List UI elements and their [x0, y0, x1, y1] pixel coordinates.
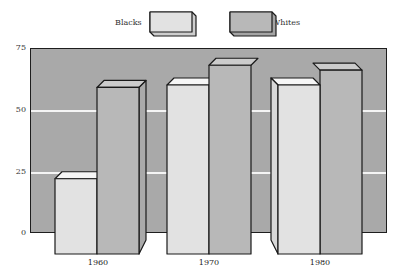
bar-side-whites-1960	[139, 80, 146, 254]
x-label-1970: 1970	[189, 258, 229, 267]
bar-top-whites-1960	[97, 80, 146, 87]
bar-whites-1960	[97, 87, 139, 254]
bar-blacks-1980	[278, 85, 320, 254]
legend-swatch-blacks	[150, 12, 192, 32]
bar-blacks-1970	[167, 85, 209, 254]
bar-top-whites-1970	[209, 58, 258, 65]
bar-top-blacks-1980	[271, 78, 320, 85]
x-label-1960: 1960	[78, 258, 118, 267]
legend-swatch-whites	[230, 12, 272, 32]
bar-blacks-1960	[55, 179, 97, 254]
bar-whites-1970	[209, 65, 251, 254]
bar-series	[0, 0, 402, 274]
bar-whites-1980	[320, 70, 362, 254]
x-label-1980: 1980	[300, 258, 340, 267]
bar-side-blacks-1980	[271, 78, 278, 254]
bar-top-whites-1980	[313, 63, 362, 70]
